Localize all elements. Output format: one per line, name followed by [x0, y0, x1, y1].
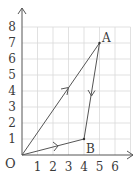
x-tick-label: 6 [111, 160, 119, 174]
segment-OA [22, 43, 100, 155]
y-tick-label: 6 [8, 52, 16, 66]
y-tick-label: 3 [8, 100, 16, 114]
y-tick-labels: 12345678 [8, 20, 16, 146]
x-tick-label: 5 [96, 160, 104, 174]
grid [22, 27, 131, 155]
point-label-B: B [86, 142, 95, 156]
origin-label: O [5, 156, 16, 171]
y-tick-label: 1 [8, 132, 16, 146]
point-A [98, 42, 100, 44]
x-tick-label: 2 [49, 160, 57, 174]
y-tick-label: 8 [8, 20, 16, 34]
vectors [22, 43, 100, 155]
x-tick-label: 1 [34, 160, 42, 174]
y-tick-label: 7 [8, 36, 16, 50]
x-tick-label: 3 [65, 160, 73, 174]
y-tick-label: 2 [8, 116, 16, 130]
x-tick-labels: 123456 [34, 160, 119, 174]
coordinate-diagram: 123456 12345678 A B O [0, 0, 139, 188]
point-label-A: A [101, 31, 111, 45]
point-B [83, 138, 85, 140]
x-tick-label: 4 [80, 160, 88, 174]
y-tick-label: 5 [8, 68, 16, 82]
y-tick-label: 4 [8, 84, 16, 98]
